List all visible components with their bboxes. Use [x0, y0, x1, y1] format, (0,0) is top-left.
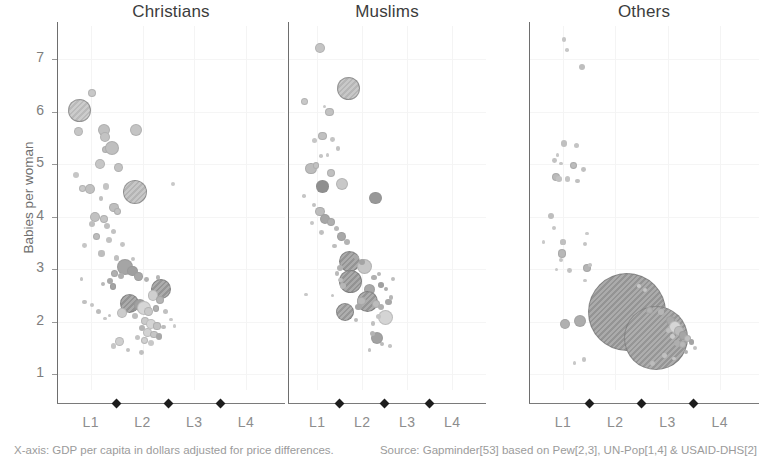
data-bubble: [312, 203, 316, 207]
data-bubble: [583, 242, 587, 246]
data-bubble: [562, 37, 566, 41]
data-bubble: [171, 182, 175, 186]
y-tick-label: 7: [22, 50, 44, 64]
x-tick-diamond: [380, 399, 390, 409]
gridline-horizontal: [289, 217, 486, 218]
gridline-vertical: [362, 26, 363, 390]
data-bubble: [338, 278, 342, 282]
chart-figure: Babies per woman 1234567 ChristiansL1L2L…: [0, 0, 767, 461]
x-tick-label: L3: [651, 414, 685, 430]
data-bubble: [574, 143, 579, 148]
panel-title: Christians: [57, 2, 285, 22]
gridline-horizontal: [58, 164, 285, 165]
data-bubble: [74, 127, 83, 136]
data-bubble: [130, 124, 142, 136]
data-bubble: [135, 335, 141, 341]
data-bubble: [637, 284, 641, 288]
data-bubble: [141, 337, 148, 344]
data-bubble: [144, 277, 149, 282]
x-tick-label: L1: [74, 414, 108, 430]
data-bubble: [559, 162, 563, 166]
gridline-vertical: [246, 26, 247, 390]
data-bubble: [559, 258, 563, 262]
source-note: Source: Gapminder[53] based on Pew[2,3],…: [380, 444, 757, 456]
panel-vertical-axis: [57, 22, 58, 404]
data-bubble: [371, 321, 376, 326]
data-bubble: [68, 99, 91, 122]
gridline-horizontal: [289, 374, 486, 375]
data-bubble: [336, 178, 348, 190]
data-bubble: [384, 287, 388, 291]
gridline-horizontal: [530, 374, 759, 375]
data-bubble: [99, 196, 103, 200]
gridline-horizontal: [289, 59, 486, 60]
data-bubble: [560, 239, 565, 244]
y-tick-label: 2: [22, 313, 44, 327]
data-bubble: [88, 89, 96, 97]
data-bubble: [581, 167, 586, 172]
gridline-vertical: [452, 26, 453, 390]
data-bubble: [662, 353, 666, 357]
data-bubble: [103, 317, 107, 321]
data-bubble: [319, 230, 324, 235]
data-bubble: [565, 176, 570, 181]
data-bubble: [95, 159, 105, 169]
gridline-vertical: [563, 26, 564, 390]
x-tick-diamond: [425, 399, 435, 409]
data-bubble: [552, 226, 556, 230]
x-tick-label: L4: [435, 414, 469, 430]
x-tick-diamond: [163, 399, 173, 409]
data-bubble: [561, 140, 567, 146]
data-bubble: [111, 229, 116, 234]
data-bubble: [98, 250, 104, 256]
x-tick-label: L2: [598, 414, 632, 430]
x-axis-note: X-axis: GDP per capita in dollars adjust…: [14, 444, 334, 456]
data-bubble: [304, 293, 308, 297]
data-bubble: [380, 342, 384, 346]
data-bubble: [120, 242, 125, 247]
data-bubble: [106, 237, 112, 243]
data-bubble: [388, 344, 392, 348]
data-bubble: [173, 324, 176, 327]
data-bubble: [80, 277, 84, 281]
data-bubble: [163, 309, 168, 314]
x-tick-label: L3: [390, 414, 424, 430]
panel-muslims: L1L2L3L4: [288, 22, 486, 404]
data-bubble: [555, 268, 559, 272]
data-bubble: [114, 255, 120, 261]
data-bubble: [326, 153, 329, 156]
data-bubble: [560, 319, 570, 329]
data-bubble: [101, 282, 105, 286]
data-bubble: [310, 221, 314, 225]
data-bubble: [368, 348, 372, 352]
x-tick-diamond: [689, 399, 699, 409]
data-bubble: [134, 272, 142, 280]
panel-vertical-axis: [529, 22, 530, 404]
data-bubble: [82, 243, 87, 248]
data-bubble: [378, 282, 384, 288]
data-bubble: [139, 350, 144, 355]
data-bubble: [161, 325, 166, 330]
data-bubble: [542, 240, 545, 243]
data-bubble: [103, 183, 109, 189]
data-bubble: [301, 98, 309, 106]
gridline-horizontal: [58, 322, 285, 323]
y-tick-label: 3: [22, 260, 44, 274]
gridline-horizontal: [58, 374, 285, 375]
y-axis-label: Babies per woman: [21, 118, 36, 278]
panel-title: Others: [529, 2, 759, 22]
data-bubble: [90, 303, 94, 307]
data-bubble: [327, 218, 335, 226]
data-bubble: [583, 279, 586, 282]
data-bubble: [114, 208, 121, 215]
data-bubble: [588, 263, 592, 267]
data-bubble: [89, 221, 95, 227]
data-bubble: [548, 213, 554, 219]
data-bubble: [684, 350, 688, 354]
data-bubble: [318, 132, 326, 140]
data-bubble: [327, 169, 335, 177]
x-tick-diamond: [215, 399, 225, 409]
data-bubble: [126, 348, 130, 352]
data-bubble: [389, 295, 394, 300]
data-bubble: [337, 77, 360, 100]
